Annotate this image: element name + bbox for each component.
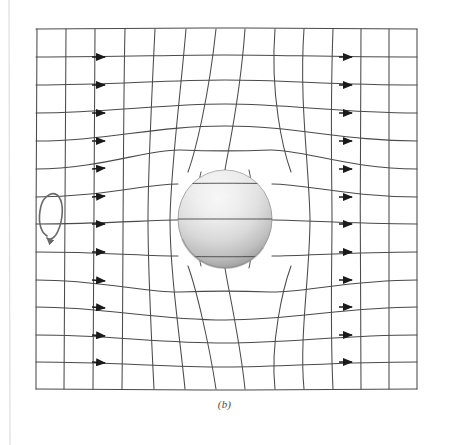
figure-caption: (b) [0,398,449,410]
figure-container: (b) [0,0,449,445]
flow-arrows-right [339,57,352,362]
page-edge-line [9,0,10,445]
sphere [170,170,282,268]
rotation-arrow-icon [39,194,62,239]
flow-field-diagram [0,0,449,445]
